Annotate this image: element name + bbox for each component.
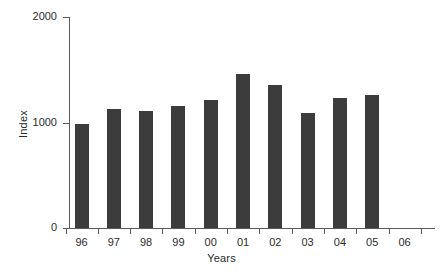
y-axis-tick-label: 2000 <box>0 11 57 22</box>
bar-04 <box>333 98 347 228</box>
x-axis-tick-mark <box>195 229 196 234</box>
x-axis-tick-label: 06 <box>385 236 425 249</box>
bar-98 <box>139 111 153 228</box>
x-axis-tick-mark <box>162 229 163 234</box>
x-axis-tick-mark <box>130 229 131 234</box>
bar-03 <box>301 113 315 228</box>
bar-chart: Index 010002000 9697989900010203040506 Y… <box>0 0 443 275</box>
bar-99 <box>171 106 185 228</box>
bar-02 <box>268 85 282 228</box>
x-axis-tick-mark <box>324 229 325 234</box>
x-axis-line <box>69 228 435 229</box>
x-axis-title: Years <box>0 252 443 264</box>
y-axis-tick-label-wrap: 0 <box>0 228 70 229</box>
bar-97 <box>107 109 121 228</box>
x-axis-tick-mark <box>66 229 67 234</box>
bar-01 <box>236 74 250 228</box>
x-axis-tick-mark <box>421 229 422 234</box>
x-axis-tick-mark <box>356 229 357 234</box>
x-axis-tick-mark <box>227 229 228 234</box>
y-axis-tick-label: 0 <box>0 222 57 233</box>
x-axis-tick-mark <box>98 229 99 234</box>
y-axis-tick-label: 1000 <box>0 117 57 128</box>
x-axis-tick-mark <box>389 229 390 234</box>
bar-96 <box>75 124 89 228</box>
y-axis-tick-label-wrap: 2000 <box>0 17 70 18</box>
y-axis-tick-label-wrap: 1000 <box>0 123 70 124</box>
x-axis-tick-mark <box>292 229 293 234</box>
bar-05 <box>365 95 379 228</box>
bar-00 <box>204 100 218 228</box>
x-axis-tick-mark <box>259 229 260 234</box>
